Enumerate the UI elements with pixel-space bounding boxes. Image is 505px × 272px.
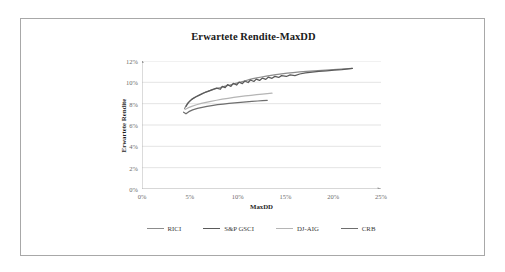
legend-label: S&P GSCI — [224, 225, 254, 232]
x-tick-label: 25% — [375, 193, 387, 200]
document-frame: Erwartete Rendite-MaxDD Erwartete Rendit… — [20, 18, 485, 256]
plot-svg — [142, 61, 381, 189]
data-series-group — [184, 68, 353, 113]
legend-item-s-p-gsci[interactable]: S&P GSCI — [203, 225, 254, 232]
y-tick-label: 10% — [126, 79, 138, 86]
chart-figure: Erwartete Rendite-MaxDD Erwartete Rendit… — [21, 19, 486, 257]
legend-swatch-icon — [341, 228, 358, 229]
x-tick-label: 20% — [327, 193, 339, 200]
y-axis-title-label: Erwartete Rendite — [121, 98, 128, 152]
legend-item-crb[interactable]: CRB — [341, 225, 376, 232]
x-tick-label: 0% — [138, 193, 147, 200]
legend-label: DJ-AIG — [297, 225, 319, 232]
y-tick-label: 0% — [129, 186, 138, 193]
legend-label: CRB — [362, 225, 376, 232]
gridlines — [142, 61, 381, 189]
x-tick-label: 15% — [279, 193, 291, 200]
y-tick-label: 12% — [126, 58, 138, 65]
series-line-rici — [185, 68, 353, 108]
y-tick-label: 2% — [129, 164, 138, 171]
legend-swatch-icon — [147, 228, 164, 229]
y-tick-label: 8% — [129, 100, 138, 107]
chart-title: Erwartete Rendite-MaxDD — [21, 31, 486, 42]
legend-item-dj-aig[interactable]: DJ-AIG — [276, 225, 319, 232]
series-line-s-p-gsci — [186, 68, 352, 106]
x-axis-title: MaxDD — [142, 203, 381, 210]
plot-area: 0%2%4%6%8%10%12% 0%5%10%15%20%25% — [142, 61, 381, 189]
x-tick-label: 10% — [232, 193, 244, 200]
series-line-crb — [184, 100, 268, 113]
x-tick-label: 5% — [185, 193, 194, 200]
chart-legend: RICIS&P GSCIDJ-AIGCRB — [81, 225, 441, 232]
legend-swatch-icon — [203, 228, 220, 229]
y-tick-label: 6% — [129, 122, 138, 129]
y-tick-label: 4% — [129, 143, 138, 150]
page-canvas: Erwartete Rendite-MaxDD Erwartete Rendit… — [0, 0, 505, 272]
legend-item-rici[interactable]: RICI — [147, 225, 182, 232]
legend-label: RICI — [168, 225, 182, 232]
legend-swatch-icon — [276, 228, 293, 229]
